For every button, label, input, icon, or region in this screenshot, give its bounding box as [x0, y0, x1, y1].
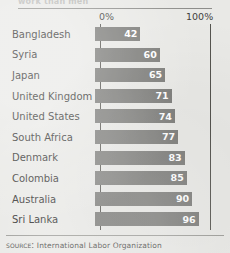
bar-value-label: 71 — [155, 91, 168, 101]
bar: 71 — [95, 89, 172, 103]
bar: 96 — [95, 212, 199, 226]
bar-value-label: 96 — [182, 215, 195, 225]
bar-value-label: 77 — [162, 132, 175, 142]
bar-value-label: 42 — [124, 29, 137, 39]
bar-row: United States74 — [0, 106, 230, 127]
bottom-divider — [6, 235, 224, 236]
bar-category-label: Denmark — [0, 152, 94, 163]
bar-row: Bangladesh42 — [0, 24, 230, 45]
bar-row: Japan65 — [0, 65, 230, 86]
bar-row: United Kingdom71 — [0, 86, 230, 107]
top-divider — [18, 8, 212, 9]
bar-category-label: United States — [0, 111, 94, 122]
bar: 77 — [95, 130, 178, 144]
source-note: Source: International Labor Organization — [6, 240, 162, 250]
bar-value-label: 83 — [168, 153, 181, 163]
bar-category-label: Bangladesh — [0, 29, 94, 40]
chart-plot-area: Bangladesh42Syria60Japan65United Kingdom… — [0, 24, 230, 232]
bar-track: 77 — [94, 127, 204, 148]
bar-value-label: 60 — [144, 50, 157, 60]
bar: 65 — [95, 68, 165, 82]
bar-track: 74 — [94, 106, 204, 127]
axis-tick-100: 100% — [186, 11, 213, 22]
bar-category-label: Colombia — [0, 173, 94, 184]
bar: 74 — [95, 109, 175, 123]
bar-track: 85 — [94, 168, 204, 189]
bar-value-label: 65 — [149, 70, 162, 80]
bar: 83 — [95, 151, 185, 165]
bar-category-label: South Africa — [0, 132, 94, 143]
source-label: Source: — [6, 240, 34, 250]
bar-track: 60 — [94, 45, 204, 66]
bar-track: 90 — [94, 189, 204, 210]
bar-track: 65 — [94, 65, 204, 86]
bar-row: Sri Lanka96 — [0, 209, 230, 230]
x-axis-tick-labels: 0% 100% — [0, 11, 230, 24]
source-text: International Labor Organization — [37, 241, 162, 250]
bar-track: 96 — [94, 209, 204, 230]
bar-track: 71 — [94, 86, 204, 107]
bar-row: South Africa77 — [0, 127, 230, 148]
bar-category-label: Japan — [0, 70, 94, 81]
clipped-headline: work than men — [18, 0, 168, 6]
bar-value-label: 85 — [171, 173, 184, 183]
bar: 90 — [95, 192, 192, 206]
bar-row: Australia90 — [0, 189, 230, 210]
bar-track: 42 — [94, 24, 204, 45]
bar: 60 — [95, 48, 160, 62]
bar-track: 83 — [94, 148, 204, 169]
bar-rows: Bangladesh42Syria60Japan65United Kingdom… — [0, 24, 230, 232]
bar-row: Colombia85 — [0, 168, 230, 189]
bar-category-label: United Kingdom — [0, 91, 94, 102]
bar-value-label: 74 — [159, 112, 172, 122]
bar-category-label: Australia — [0, 194, 94, 205]
bar: 42 — [95, 27, 140, 41]
bar: 85 — [95, 171, 187, 185]
bar-value-label: 90 — [176, 194, 189, 204]
bar-category-label: Sri Lanka — [0, 214, 94, 225]
bar-row: Denmark83 — [0, 148, 230, 169]
bar-row: Syria60 — [0, 45, 230, 66]
axis-tick-0: 0% — [99, 11, 114, 22]
bar-category-label: Syria — [0, 49, 94, 60]
